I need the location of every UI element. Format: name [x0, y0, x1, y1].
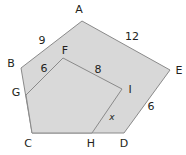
segment-label-AE: 12 [125, 31, 139, 42]
geometry-diagram: ABEFGICHD 912686x [0, 0, 186, 155]
vertex-label-H: H [87, 138, 95, 149]
vertex-label-D: D [120, 138, 128, 149]
segment-label-IH: x [109, 113, 114, 122]
vertex-label-G: G [12, 87, 21, 98]
vertex-label-B: B [7, 58, 15, 69]
vertex-label-A: A [75, 4, 83, 15]
vertex-label-F: F [62, 45, 68, 56]
vertex-label-C: C [24, 138, 32, 149]
vertex-label-I: I [128, 84, 131, 95]
segment-label-AB: 9 [39, 35, 46, 46]
segment-label-ED: 6 [148, 101, 155, 112]
vertex-label-E: E [176, 65, 183, 76]
geometry-canvas [0, 0, 186, 155]
segment-label-FG: 6 [41, 63, 48, 74]
segment-label-FI: 8 [95, 64, 102, 75]
